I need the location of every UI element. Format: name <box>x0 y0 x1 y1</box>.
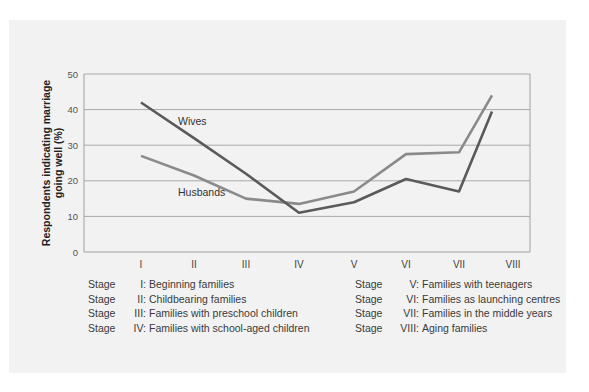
stage-legend-right: StageV:Families with teenagers StageVI:F… <box>355 277 560 335</box>
legend-row: StageV:Families with teenagers <box>355 277 560 292</box>
legend-row: StageIII:Families with preschool childre… <box>88 306 310 321</box>
legend-row: StageII:Childbearing families <box>88 292 310 307</box>
legend-row: StageVIII:Aging families <box>355 321 560 336</box>
legend-row: StageIV:Families with school-aged childr… <box>88 321 310 336</box>
y-tick-label: 50 <box>67 69 78 80</box>
legend-row: StageVI:Families as launching centres <box>355 292 560 307</box>
x-tick-label: VII <box>453 259 465 270</box>
stage-legend-left: StageI:Beginning families StageII:Childb… <box>88 277 310 335</box>
x-tick-label: V <box>351 259 358 270</box>
x-tick-label: IV <box>294 259 304 270</box>
legend-row: StageVII:Families in the middle years <box>355 306 560 321</box>
x-tick-label: VIII <box>505 259 520 270</box>
x-tick-label: VI <box>401 259 410 270</box>
x-tick-label: I <box>140 259 143 270</box>
y-tick-label: 30 <box>67 140 78 151</box>
y-tick-label: 0 <box>73 247 78 258</box>
series-label-husbands: Husbands <box>178 186 225 198</box>
y-tick-label: 20 <box>67 175 78 186</box>
y-tick-label: 10 <box>67 211 78 222</box>
y-axis-label-line: Respondents indicating marriage <box>40 80 52 246</box>
y-tick-label: 40 <box>67 104 78 115</box>
legend-row: StageI:Beginning families <box>88 277 310 292</box>
x-tick-label: III <box>242 259 250 270</box>
series-label-wives: Wives <box>178 115 207 127</box>
y-axis-label: Respondents indicating marriagegoing wel… <box>40 80 64 246</box>
y-axis-label-line: going well (%) <box>52 128 64 199</box>
x-tick-label: II <box>191 259 197 270</box>
